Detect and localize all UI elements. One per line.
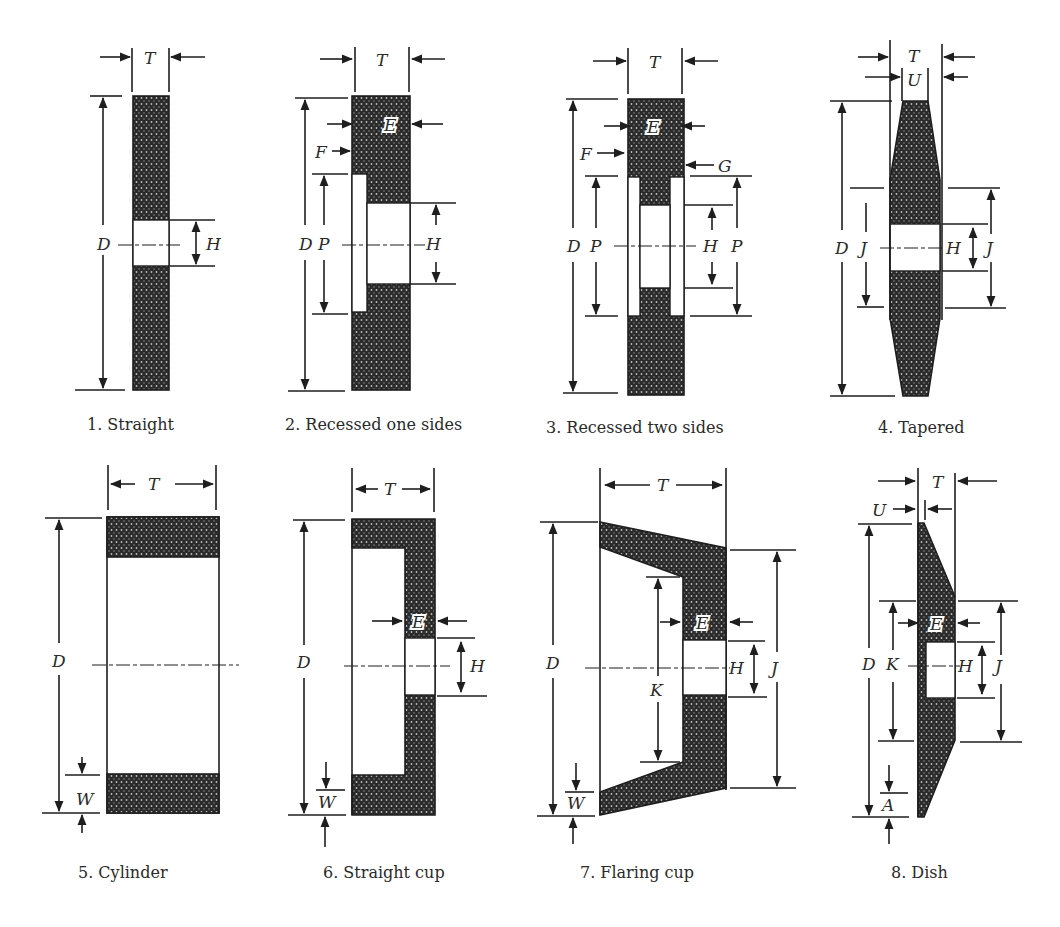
dim-label-d: D <box>298 234 313 254</box>
wheel-rim-top <box>107 517 219 557</box>
dim-label-j: J <box>992 656 1003 676</box>
dim-label-t: T <box>148 474 161 494</box>
caption-recessed-one-sides: 2. Recessed one sides <box>285 415 462 434</box>
panel-2-recessed-one-side: T E F D P H 2. Recessed one sides <box>285 47 462 434</box>
dim-label-j-right: J <box>983 238 994 258</box>
panel-6-straight-cup: T E D H W 6. Straight cup <box>288 468 487 882</box>
panel-5-cylinder: T D W 5. Cylinder <box>42 465 239 882</box>
dim-label-d: D <box>861 654 876 674</box>
dim-label-w: W <box>76 789 95 809</box>
dim-label-t: T <box>932 472 945 492</box>
caption-cylinder: 5. Cylinder <box>78 863 168 882</box>
grinding-wheel-shapes-figure: T D H 1. Straight T E F <box>0 0 1060 927</box>
dim-label-d: D <box>545 653 560 673</box>
dim-label-p-left: P <box>589 236 602 256</box>
dim-label-j-left: J <box>857 238 868 258</box>
caption-dish: 8. Dish <box>891 863 948 882</box>
dim-label-t: T <box>649 52 662 72</box>
dim-label-u: U <box>872 500 887 520</box>
panel-7-flaring-cup: T D K E H J W 7. Flaring cup <box>537 468 796 882</box>
dim-label-t: T <box>384 479 397 499</box>
dim-label-d: D <box>96 234 111 254</box>
bore-hole <box>926 642 955 698</box>
dim-label-h: H <box>425 234 442 254</box>
dim-label-d: D <box>566 236 581 256</box>
dim-label-p: P <box>317 234 330 254</box>
caption-recessed-two-sides: 3. Recessed two sides <box>546 418 724 437</box>
panel-3-recessed-two-sides: T E F G D P H P 3. Recessed <box>546 48 752 437</box>
dim-label-j: J <box>768 658 779 678</box>
dim-label-h: H <box>469 656 486 676</box>
dim-label-g: G <box>718 156 732 176</box>
dim-label-t: T <box>144 48 157 68</box>
dim-label-u: U <box>907 70 922 90</box>
dim-label-e: E <box>646 117 660 137</box>
panel-1-straight: T D H 1. Straight <box>75 48 222 434</box>
caption-straight-cup: 6. Straight cup <box>323 863 445 882</box>
bore-hole <box>367 203 410 284</box>
dim-label-h: H <box>205 234 222 254</box>
recess <box>352 174 367 312</box>
dim-label-k: K <box>885 654 900 674</box>
dim-label-f: F <box>314 142 328 162</box>
dim-label-w: W <box>318 792 337 812</box>
dim-label-w: W <box>567 793 586 813</box>
caption-tapered: 4. Tapered <box>878 418 964 437</box>
dim-label-d: D <box>51 651 66 671</box>
dim-label-h: H <box>945 238 962 258</box>
dim-label-t: T <box>908 46 921 66</box>
caption-straight: 1. Straight <box>87 415 175 434</box>
panel-8-dish: T U D K E H J A <box>852 468 1022 882</box>
dim-label-h: H <box>728 658 745 678</box>
dim-label-a: A <box>880 795 894 815</box>
panel-4-tapered: T U D J H J 4. Tapered <box>830 40 1006 437</box>
wheel-rim-bottom <box>107 774 219 813</box>
caption-flaring-cup: 7. Flaring cup <box>580 863 694 882</box>
dim-label-d: D <box>296 652 311 672</box>
dim-label-e: E <box>695 613 709 633</box>
dim-label-p-right: P <box>730 236 743 256</box>
dim-label-k: K <box>649 680 664 700</box>
dim-label-e: E <box>929 614 943 634</box>
dim-label-e: E <box>383 115 397 135</box>
dim-label-h: H <box>957 656 974 676</box>
dim-label-t: T <box>376 50 389 70</box>
bore-hole <box>133 220 169 266</box>
dim-label-d: D <box>834 238 849 258</box>
dim-label-f: F <box>579 144 593 164</box>
dim-label-e: E <box>411 612 425 632</box>
dim-label-h: H <box>702 236 719 256</box>
dim-label-t: T <box>657 475 670 495</box>
